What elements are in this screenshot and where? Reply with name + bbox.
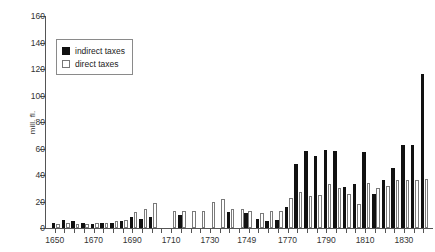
legend-item-direct-taxes: direct taxes [62, 57, 125, 70]
bar-direct [241, 209, 245, 228]
x-tick-mark [200, 229, 201, 233]
bar-direct [309, 196, 313, 228]
x-tick-label: 1710 [151, 235, 191, 245]
x-tick-label: 1730 [190, 235, 230, 245]
bar-direct [248, 211, 252, 228]
bar-direct [386, 186, 390, 228]
bar-direct [182, 211, 186, 228]
bar-indirect [314, 156, 318, 228]
x-tick-label: 1749 [227, 235, 267, 245]
x-tick-mark [103, 229, 104, 233]
tax-revenue-bar-chart: mill. fl. 160140120100806040200 16501670… [0, 0, 435, 252]
bar-direct [299, 192, 303, 228]
bar-direct [367, 183, 371, 228]
x-tick-mark [171, 229, 172, 233]
y-tick-label: 20 [21, 197, 45, 207]
x-tick-mark [355, 229, 356, 233]
legend-label-direct: direct taxes [75, 59, 118, 69]
x-tick-label: 1790 [306, 235, 346, 245]
y-tick-label: 40 [21, 170, 45, 180]
x-tick-mark [152, 229, 153, 233]
bar-direct [318, 195, 322, 228]
bar-indirect [139, 219, 143, 228]
y-tick-label: 120 [21, 64, 45, 74]
chart-legend: indirect taxes direct taxes [56, 39, 133, 75]
x-tick-mark [336, 229, 337, 233]
bar-direct [115, 221, 119, 228]
bar-indirect [294, 164, 298, 228]
x-tick-mark [191, 229, 192, 233]
x-tick-mark [385, 229, 386, 233]
bar-indirect [362, 152, 366, 228]
y-tick-label: 160 [21, 11, 45, 21]
x-tick-label: 1830 [384, 235, 424, 245]
x-tick-mark [210, 229, 211, 233]
bar-direct [289, 198, 293, 228]
x-tick-mark [113, 229, 114, 233]
bar-direct [134, 212, 138, 228]
bar-indirect [391, 168, 395, 228]
y-tick-label: 140 [21, 38, 45, 48]
bar-indirect [178, 215, 182, 228]
bar-indirect [256, 219, 260, 228]
bar-direct [231, 209, 235, 228]
legend-label-indirect: indirect taxes [75, 46, 125, 56]
bar-indirect [149, 217, 153, 228]
bar-indirect [265, 221, 269, 228]
bar-direct [425, 179, 429, 228]
x-tick-mark [307, 229, 308, 233]
bar-indirect [304, 151, 308, 228]
x-tick-mark [249, 229, 250, 233]
bar-indirect [324, 150, 328, 228]
y-tick-label: 0 [21, 223, 45, 233]
x-tick-mark [229, 229, 230, 233]
bar-indirect [227, 212, 231, 228]
bar-direct [192, 211, 196, 228]
bar-indirect [353, 184, 357, 228]
legend-item-indirect-taxes: indirect taxes [62, 44, 125, 57]
x-tick-mark [123, 229, 124, 233]
x-tick-mark [142, 229, 143, 233]
x-tick-mark [346, 229, 347, 233]
bar-direct [270, 211, 274, 228]
bar-direct [376, 188, 380, 228]
bar-direct [153, 203, 157, 228]
x-tick-label: 1650 [35, 235, 75, 245]
bar-indirect [130, 217, 134, 228]
x-tick-mark [132, 229, 133, 233]
y-tick-label: 80 [21, 117, 45, 127]
x-tick-mark [423, 229, 424, 233]
bar-direct [144, 209, 148, 228]
bar-direct [173, 211, 177, 228]
y-tick-label: 100 [21, 91, 45, 101]
bar-direct [202, 211, 206, 228]
x-tick-mark [317, 229, 318, 233]
x-tick-mark [94, 229, 95, 233]
x-tick-mark [288, 229, 289, 233]
bar-direct [124, 220, 128, 228]
x-tick-mark [414, 229, 415, 233]
x-tick-mark [220, 229, 221, 233]
x-tick-mark [404, 229, 405, 233]
y-tick-label: 60 [21, 144, 45, 154]
bar-indirect [333, 151, 337, 228]
bar-direct [357, 204, 361, 228]
bar-direct [396, 180, 400, 228]
bar-indirect [343, 187, 347, 228]
bar-indirect [421, 74, 425, 228]
x-tick-label: 1690 [112, 235, 152, 245]
bar-indirect [382, 180, 386, 228]
x-tick-label: 1810 [345, 235, 385, 245]
x-tick-mark [181, 229, 182, 233]
bar-indirect [401, 145, 405, 228]
bar-direct [328, 184, 332, 228]
x-tick-mark [375, 229, 376, 233]
x-tick-mark [239, 229, 240, 233]
x-tick-mark [64, 229, 65, 233]
bar-indirect [411, 145, 415, 228]
bar-direct [338, 188, 342, 228]
x-tick-mark [297, 229, 298, 233]
bar-direct [279, 211, 283, 228]
bar-direct [415, 180, 419, 228]
x-tick-mark [74, 229, 75, 233]
